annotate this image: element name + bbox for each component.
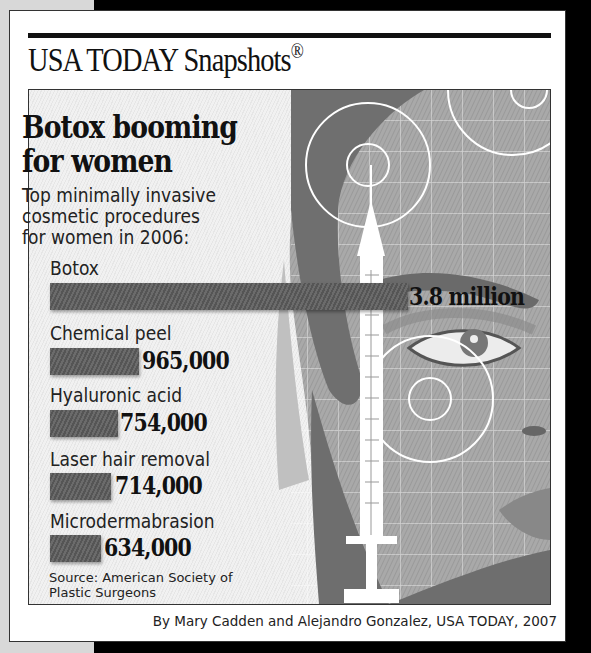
bar-botox <box>50 283 408 310</box>
bar-laser-hair-removal <box>50 473 111 500</box>
subtitle-line-3: for women in 2006: <box>22 227 216 248</box>
title-line-2: for women <box>22 144 237 178</box>
chart-title: Botox booming for women <box>22 110 237 178</box>
subtitle-line-2: cosmetic procedures <box>22 206 216 227</box>
bar-hyaluronic-acid <box>50 410 118 437</box>
title-line-1: Botox booming <box>22 110 237 144</box>
value-label-chemical-peel: 965,000 <box>142 346 229 375</box>
value-label-hyaluronic-acid: 754,000 <box>120 408 207 437</box>
subtitle-line-1: Top minimally invasive <box>22 185 216 206</box>
brand-text: USA TODAY Snapshots <box>28 42 291 78</box>
registered-mark: ® <box>291 40 303 62</box>
source-note: Source: American Society of Plastic Surg… <box>49 570 233 600</box>
bar-microdermabrasion <box>50 535 101 562</box>
brand-title: USA TODAY Snapshots® <box>28 42 303 79</box>
byline: By Mary Cadden and Alejandro Gonzalez, U… <box>153 613 557 629</box>
category-label-chemical-peel: Chemical peel <box>50 322 171 344</box>
category-label-botox: Botox <box>50 257 99 279</box>
value-label-botox: 3.8 million <box>409 282 524 311</box>
source-line-1: Source: American Society of <box>49 570 233 585</box>
chart-subtitle: Top minimally invasive cosmetic procedur… <box>22 185 216 248</box>
category-label-laser-hair-removal: Laser hair removal <box>50 448 210 470</box>
value-label-microdermabrasion: 634,000 <box>104 533 191 562</box>
bar-chemical-peel <box>50 348 139 375</box>
category-label-microdermabrasion: Microdermabrasion <box>50 510 215 532</box>
source-line-2: Plastic Surgeons <box>49 585 233 600</box>
value-label-laser-hair-removal: 714,000 <box>115 471 202 500</box>
header-rule <box>28 33 551 38</box>
category-label-hyaluronic-acid: Hyaluronic acid <box>50 384 182 406</box>
